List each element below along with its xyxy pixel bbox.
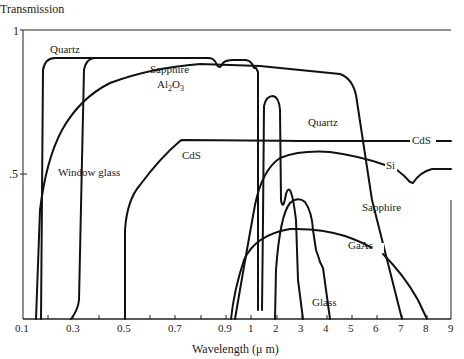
x-tick-labels: 0.1 0.3 0.5 0.7 0.9 1 2 3 4 5 6 7 8 9 xyxy=(15,322,454,334)
y-tick-label-1: 1 xyxy=(13,24,19,38)
label-window-glass: Window glass xyxy=(58,166,120,178)
x-tick-label: 1 xyxy=(248,322,254,334)
x-axis-title: Wavelength (μ m) xyxy=(192,342,279,356)
series-quartz xyxy=(41,58,258,319)
x-tick-label: 3 xyxy=(298,322,304,334)
series-window-glass xyxy=(71,58,94,319)
y-axis: 1 .5 xyxy=(9,24,27,181)
series-quartz-ir xyxy=(262,96,303,319)
x-tick-label: 9 xyxy=(448,322,454,334)
x-tick-label: 4 xyxy=(323,322,329,334)
y-axis-title: Transmission xyxy=(0,2,64,16)
x-tick-label: 2 xyxy=(273,322,279,334)
x-tick-label: 0.3 xyxy=(66,322,80,334)
label-cds-left: CdS xyxy=(182,149,201,161)
label-gaas: GaAs xyxy=(348,239,373,251)
series-gaas-tail xyxy=(383,254,427,319)
series-si-tail xyxy=(397,169,451,183)
x-tick-label: 0.5 xyxy=(117,322,131,334)
x-tick-label: 0.7 xyxy=(168,322,182,334)
label-quartz-ir: Quartz xyxy=(308,116,338,128)
label-si: Si xyxy=(386,159,395,171)
label-al2o3: Al2O3 xyxy=(157,78,184,93)
label-sapphire: Sapphire xyxy=(150,63,189,75)
label-sapphire-right: Sapphire xyxy=(362,201,401,213)
x-tick-label: 8 xyxy=(423,322,429,334)
x-tick-label: 7 xyxy=(398,322,404,334)
label-glass: Glass xyxy=(312,296,336,308)
y-tick-label-0.5: .5 xyxy=(9,167,18,181)
label-quartz-uv: Quartz xyxy=(50,43,80,55)
x-tick-label: 6 xyxy=(373,322,379,334)
label-cds-right: CdS xyxy=(412,134,431,146)
transmission-chart: Transmission 1 .5 0.1 0.3 0.5 0.7 xyxy=(0,0,464,359)
series-sapphire xyxy=(36,64,402,319)
x-tick-label: 0.1 xyxy=(15,322,29,334)
x-tick-label: 5 xyxy=(348,322,354,334)
x-tick-label: 0.9 xyxy=(218,322,232,334)
